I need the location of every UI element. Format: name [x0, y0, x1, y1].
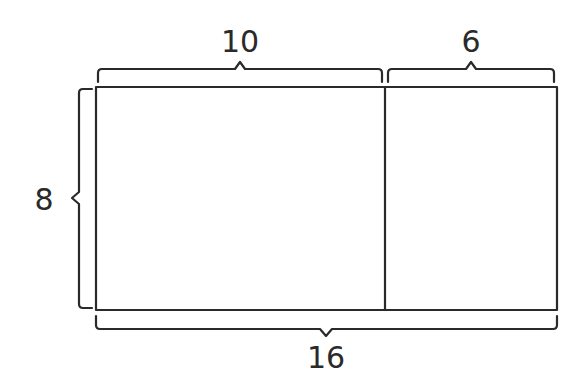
outer-rectangle	[96, 87, 557, 310]
brace-left	[72, 89, 92, 308]
area-model-diagram	[0, 0, 581, 390]
label-top-left: 10	[221, 27, 259, 57]
label-top-right: 6	[461, 27, 480, 57]
label-left: 8	[34, 185, 53, 215]
brace-top-left	[98, 62, 382, 82]
label-bottom: 16	[307, 343, 345, 373]
brace-bottom	[96, 316, 557, 336]
brace-top-right	[388, 62, 554, 82]
